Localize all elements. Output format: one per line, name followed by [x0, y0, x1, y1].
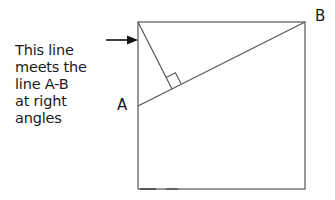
square-outline: [138, 22, 305, 189]
caption-line: meets the: [15, 59, 87, 76]
point-label-a: A: [117, 96, 127, 114]
perpendicular-line: [138, 22, 172, 89]
point-label-b: B: [315, 7, 325, 25]
caption-line: line A-B: [15, 76, 87, 93]
pointer-arrow-head-icon: [127, 36, 138, 45]
caption-line: This line: [15, 42, 87, 59]
line-a-b: [138, 22, 305, 106]
caption-line: angles: [15, 110, 87, 127]
caption-line: at right: [15, 93, 87, 110]
caption-text: This line meets the line A-B at right an…: [15, 42, 87, 127]
